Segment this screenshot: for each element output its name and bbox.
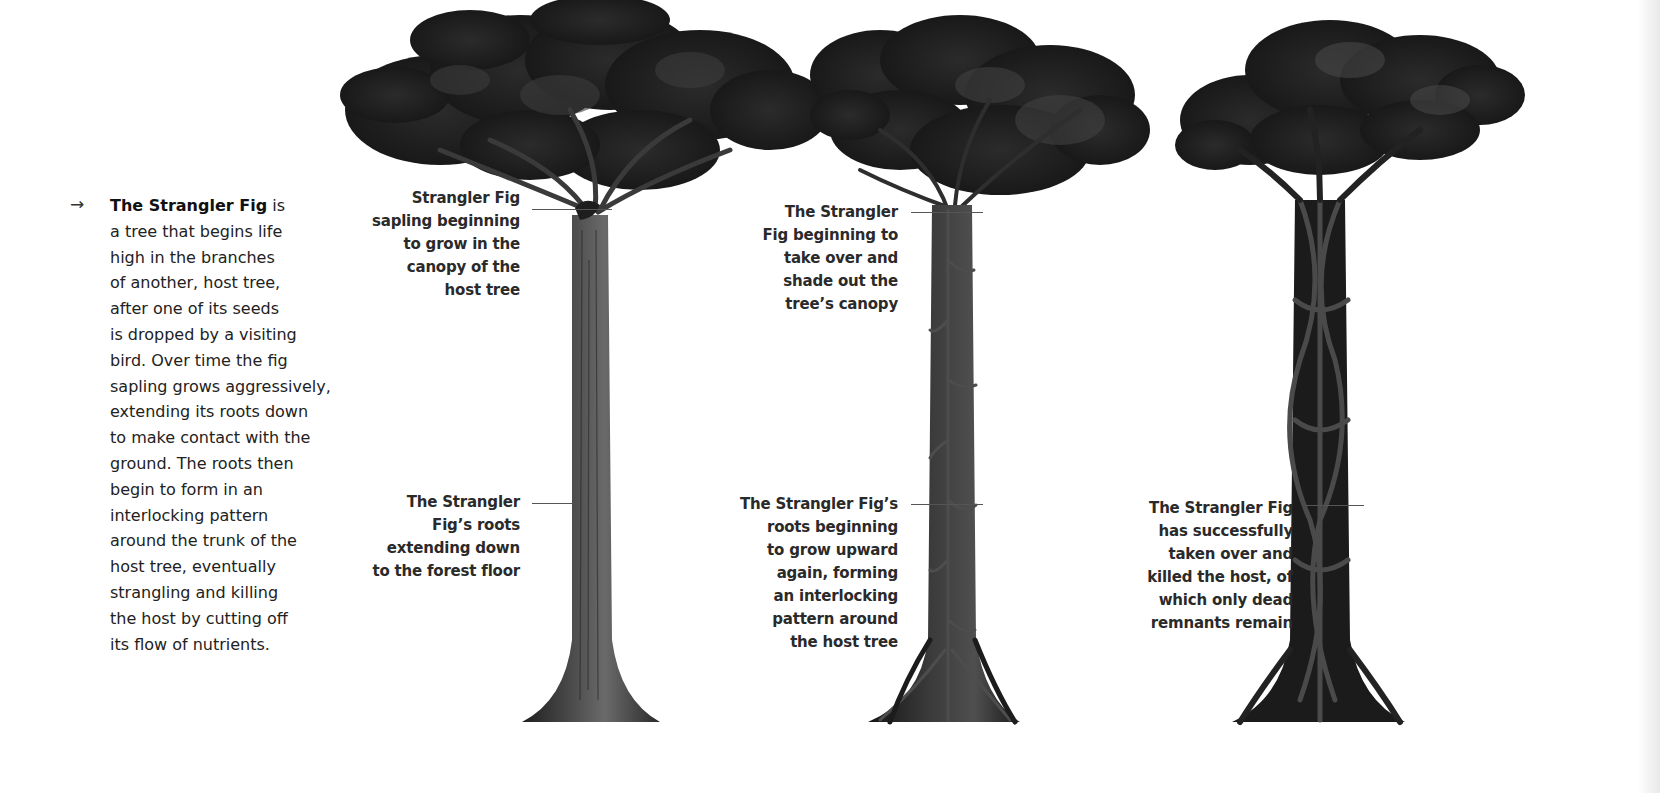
callout-line: again, forming (740, 562, 898, 585)
callout-line: which only dead (1147, 589, 1293, 612)
callout-line: The Strangler (372, 491, 520, 514)
intro-line: high in the branches (110, 245, 340, 271)
callout-line: roots beginning (740, 516, 898, 539)
callout-line: host tree (372, 279, 520, 302)
callout-stage1-roots: The Strangler Fig’s roots extending down… (372, 491, 520, 583)
callout-stage1-sapling: Strangler Fig sapling beginning to grow … (372, 187, 520, 302)
callout-line: to the forest floor (372, 560, 520, 583)
leader-line (911, 212, 983, 213)
leader-line (532, 209, 612, 210)
callout-line: The Strangler (762, 201, 898, 224)
intro-title-suffix: is (267, 196, 285, 215)
intro-line: is dropped by a visiting (110, 322, 340, 348)
callout-line: has successfully (1147, 520, 1293, 543)
intro-title: The Strangler Fig (110, 196, 267, 215)
intro-line: to make contact with the (110, 425, 340, 451)
intro-line: ground. The roots then (110, 451, 340, 477)
intro-line: begin to form in an (110, 477, 340, 503)
callout-line: Fig’s roots (372, 514, 520, 537)
leader-line (532, 503, 574, 504)
intro-paragraph: → The Strangler Fig is a tree that begin… (70, 193, 340, 657)
intro-line: its flow of nutrients. (110, 632, 340, 658)
callout-line: to grow upward (740, 539, 898, 562)
callout-line: to grow in the (372, 233, 520, 256)
intro-line: sapling grows aggressively, (110, 374, 340, 400)
intro-body: The Strangler Fig is a tree that begins … (110, 193, 340, 657)
intro-line: strangling and killing (110, 580, 340, 606)
callout-line: an interlocking (740, 585, 898, 608)
leader-line (911, 504, 983, 505)
callout-stage2-roots: The Strangler Fig’s roots beginning to g… (740, 493, 898, 654)
callout-line: killed the host, of (1147, 566, 1293, 589)
callout-line: remnants remain (1147, 612, 1293, 635)
intro-line: after one of its seeds (110, 296, 340, 322)
callout-line: shade out the (762, 270, 898, 293)
page-edge-shadow (1638, 0, 1660, 793)
intro-line: extending its roots down (110, 399, 340, 425)
callout-line: sapling beginning (372, 210, 520, 233)
callout-line: The Strangler Fig (1147, 497, 1293, 520)
callout-line: pattern around (740, 608, 898, 631)
callout-line: extending down (372, 537, 520, 560)
callout-line: tree’s canopy (762, 293, 898, 316)
arrow-right-icon: → (70, 192, 84, 218)
intro-line: a tree that begins life (110, 219, 340, 245)
intro-line: the host by cutting off (110, 606, 340, 632)
intro-first-line: The Strangler Fig is (110, 193, 340, 219)
callout-line: the host tree (740, 631, 898, 654)
callout-line: Fig beginning to (762, 224, 898, 247)
callout-line: The Strangler Fig’s (740, 493, 898, 516)
intro-line: around the trunk of the (110, 528, 340, 554)
intro-line: host tree, eventually (110, 554, 340, 580)
callout-stage3-killed: The Strangler Fig has successfully taken… (1147, 497, 1293, 635)
callout-line: take over and (762, 247, 898, 270)
intro-line: bird. Over time the fig (110, 348, 340, 374)
intro-line: interlocking pattern (110, 503, 340, 529)
callout-stage2-canopy: The Strangler Fig beginning to take over… (762, 201, 898, 316)
leader-line (1306, 505, 1364, 506)
callout-line: canopy of the (372, 256, 520, 279)
callout-line: Strangler Fig (372, 187, 520, 210)
intro-line: of another, host tree, (110, 270, 340, 296)
callout-line: taken over and (1147, 543, 1293, 566)
